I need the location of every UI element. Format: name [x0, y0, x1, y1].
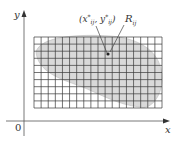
y-axis	[22, 10, 27, 136]
diagram: y x 0 (x*ij, y*ij) Rij	[0, 0, 184, 148]
sample-point-label: (x*ij, y*ij)	[79, 13, 116, 26]
subrectangle-label: Rij	[124, 13, 136, 27]
y-axis-label: y	[13, 9, 20, 20]
origin-label: 0	[15, 122, 21, 133]
shaded-region	[36, 35, 162, 107]
sample-point	[106, 52, 109, 55]
x-axis-label: x	[165, 124, 171, 135]
x-axis	[6, 119, 170, 124]
